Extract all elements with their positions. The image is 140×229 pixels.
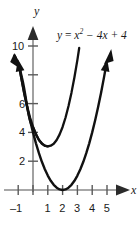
parabola-graph-line xyxy=(19,65,106,190)
parabola-figure: y x –1 1 2 3 4 5 2 4 6 10 y = x2 − 4x + … xyxy=(0,0,140,229)
curve-overlay xyxy=(0,0,140,229)
parabola-right-arrowhead xyxy=(101,59,110,72)
parabola-left-arrowhead xyxy=(16,59,25,72)
